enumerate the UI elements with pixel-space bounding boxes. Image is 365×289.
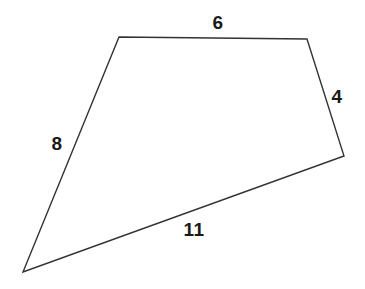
side-length-label-top: 6 [212,13,223,32]
side-length-label-right: 4 [331,87,342,106]
side-length-label-left: 8 [51,134,62,153]
figure-canvas: 6 4 11 8 [0,0,365,289]
side-length-label-bottom: 11 [183,220,204,239]
